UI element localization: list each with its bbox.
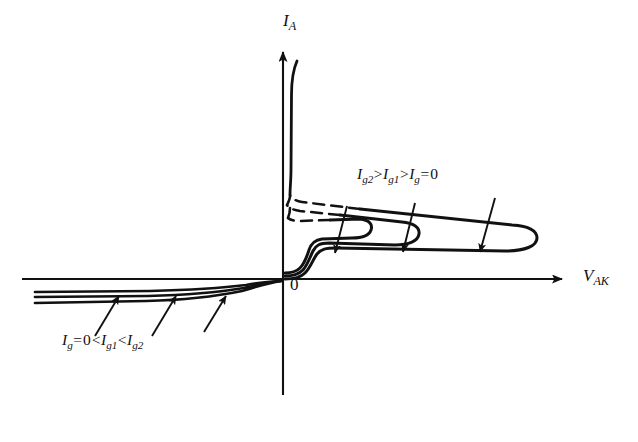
x-axis-label: VAK	[583, 267, 609, 288]
lower-annotation-part-1: g	[67, 339, 73, 351]
curve-ig0-breakover-knee	[290, 61, 297, 195]
lower-annotation-part-3: 0	[83, 331, 92, 348]
lower-annotation-part-9: g2	[132, 339, 143, 351]
upper-annotation-part-1: g2	[362, 173, 373, 185]
origin-label: 0	[290, 276, 299, 293]
thyristor-vi-characteristic-figure: IA VAK 0 Ig2>Ig1>Ig=0 Ig=0<Ig1<Ig2	[0, 0, 638, 442]
y-axis-label-subscript: A	[289, 19, 296, 33]
lower-gate-current-annotation: Ig=0<Ig1<Ig2	[62, 332, 143, 351]
lower-annotation-part-2: =	[73, 331, 83, 348]
curve-ig2-onstate	[285, 219, 372, 273]
upper-annotation-part-5: >	[399, 165, 409, 182]
forward-pointer-arrow-3	[480, 198, 495, 252]
y-axis-label: IA	[283, 12, 296, 33]
lower-annotation-part-6: g1	[106, 339, 117, 351]
curve-ig1-onstate	[285, 215, 419, 276]
upper-annotation-part-4: g1	[388, 173, 399, 185]
reverse-pointer-arrow-3	[204, 296, 226, 332]
upper-annotation-part-2: >	[373, 165, 383, 182]
forward-pointer-arrow-1	[335, 206, 347, 253]
reverse-pointer-arrows	[95, 296, 226, 336]
lower-annotation-part-7: <	[117, 331, 127, 348]
reverse-characteristic-curves	[35, 281, 281, 303]
curve-ig2-negative-resistance	[288, 218, 330, 221]
plot-canvas	[0, 0, 638, 442]
x-axis-label-subscript: AK	[593, 274, 609, 288]
curve-ig1-blocking	[287, 196, 290, 205]
x-axis-label-symbol: V	[583, 266, 593, 285]
upper-gate-current-annotation: Ig2>Ig1>Ig=0	[357, 166, 438, 185]
curve-ig0-negative-resistance	[290, 195, 360, 209]
upper-annotation-part-9: 0	[430, 165, 439, 182]
lower-annotation-part-4: <	[91, 331, 101, 348]
upper-annotation-part-8: =	[420, 165, 430, 182]
curve-ig2-blocking	[288, 208, 290, 218]
